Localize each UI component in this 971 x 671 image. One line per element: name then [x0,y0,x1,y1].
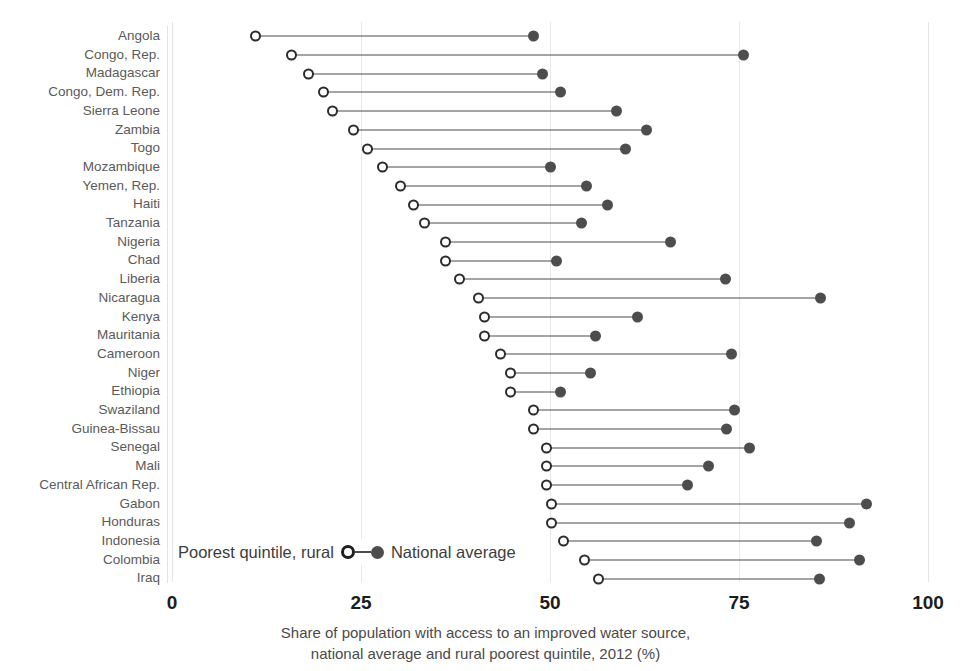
poorest-quintile-marker[interactable] [419,218,430,229]
connector-line [552,503,866,504]
poorest-quintile-marker[interactable] [454,274,465,285]
x-axis-caption-line-2: national average and rural poorest quint… [0,643,971,664]
national-average-marker[interactable] [726,349,737,360]
poorest-quintile-marker[interactable] [505,367,516,378]
national-average-marker[interactable] [602,199,613,210]
poorest-quintile-marker[interactable] [593,573,604,584]
connector-line [547,485,688,486]
category-label: Honduras [0,513,160,532]
national-average-marker[interactable] [703,461,714,472]
poorest-quintile-marker[interactable] [479,330,490,341]
connector-line [511,391,561,392]
national-average-marker[interactable] [528,31,539,42]
national-average-marker[interactable] [729,405,740,416]
category-label: Zambia [0,121,160,140]
x-tick-label-50: 50 [539,592,560,614]
national-average-marker[interactable] [581,180,592,191]
national-average-marker[interactable] [665,237,676,248]
poorest-quintile-marker[interactable] [558,536,569,547]
poorest-quintile-marker[interactable] [495,349,506,360]
poorest-quintile-marker[interactable] [395,180,406,191]
connector-line [446,242,671,243]
national-average-marker[interactable] [738,50,749,61]
connector-line [479,298,821,299]
dumbbell-row [172,289,928,308]
national-average-marker[interactable] [811,536,822,547]
poorest-quintile-marker[interactable] [377,162,388,173]
connector-line [255,36,533,37]
poorest-quintile-marker[interactable] [440,237,451,248]
dumbbell-row [172,64,928,83]
poorest-quintile-marker[interactable] [327,106,338,117]
poorest-quintile-marker[interactable] [541,461,552,472]
dumbbell-row [172,513,928,532]
national-average-marker[interactable] [545,162,556,173]
national-average-marker[interactable] [620,143,631,154]
category-label: Niger [0,364,160,383]
dumbbell-row [172,495,928,514]
national-average-marker[interactable] [537,68,548,79]
dumbbell-row [172,382,928,401]
dumbbell-row [172,233,928,252]
category-label: Central African Rep. [0,476,160,495]
national-average-marker[interactable] [815,293,826,304]
national-average-marker[interactable] [844,517,855,528]
national-average-marker[interactable] [854,554,865,565]
poorest-quintile-marker[interactable] [579,554,590,565]
national-average-marker[interactable] [576,218,587,229]
category-label: Nicaragua [0,289,160,308]
poorest-quintile-marker[interactable] [318,87,329,98]
poorest-quintile-marker[interactable] [303,68,314,79]
national-average-marker[interactable] [814,573,825,584]
poorest-quintile-marker[interactable] [541,442,552,453]
poorest-quintile-marker[interactable] [546,498,557,509]
label-plot-divider [167,26,168,583]
category-label: Tanzania [0,214,160,233]
poorest-quintile-marker[interactable] [473,293,484,304]
national-average-marker[interactable] [720,274,731,285]
dumbbell-row [172,102,928,121]
poorest-quintile-marker[interactable] [362,143,373,154]
connector-line [585,559,860,560]
category-label: Congo, Dem. Rep. [0,83,160,102]
poorest-quintile-marker[interactable] [528,424,539,435]
connector-line [564,541,817,542]
connector-line [552,522,850,523]
poorest-quintile-marker[interactable] [541,480,552,491]
poorest-quintile-marker[interactable] [286,50,297,61]
national-average-marker[interactable] [555,87,566,98]
dumbbell-row [172,345,928,364]
dumbbell-row [172,251,928,270]
national-average-marker[interactable] [744,442,755,453]
connector-line [533,429,727,430]
poorest-quintile-marker[interactable] [440,255,451,266]
national-average-marker[interactable] [551,255,562,266]
national-average-marker[interactable] [555,386,566,397]
national-average-marker[interactable] [632,311,643,322]
poorest-quintile-marker[interactable] [505,386,516,397]
connector-line [533,410,734,411]
poorest-quintile-marker[interactable] [479,311,490,322]
poorest-quintile-marker[interactable] [348,124,359,135]
dumbbell-row [172,27,928,46]
poorest-quintile-marker[interactable] [250,31,261,42]
connector-line [446,260,556,261]
national-average-marker[interactable] [611,106,622,117]
national-average-marker[interactable] [590,330,601,341]
x-axis-ticks: 0255075100 [0,592,971,620]
dumbbell-row [172,438,928,457]
category-axis-labels: AngolaCongo, Rep.MadagascarCongo, Dem. R… [0,22,160,582]
poorest-quintile-marker[interactable] [546,517,557,528]
national-average-marker[interactable] [585,367,596,378]
dumbbell-row [172,214,928,233]
national-average-marker[interactable] [641,124,652,135]
national-average-marker[interactable] [861,498,872,509]
poorest-quintile-marker[interactable] [528,405,539,416]
national-average-marker[interactable] [682,480,693,491]
poorest-quintile-marker[interactable] [408,199,419,210]
connector-line [485,335,595,336]
filled-circle-icon [371,546,384,559]
national-average-marker[interactable] [721,424,732,435]
category-label: Gabon [0,495,160,514]
connector-line [547,447,750,448]
